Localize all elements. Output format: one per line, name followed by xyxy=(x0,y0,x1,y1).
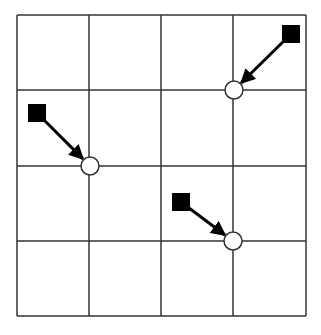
arrow-icon xyxy=(181,202,225,235)
circle-target-icon xyxy=(224,232,242,250)
markers xyxy=(28,25,300,250)
circle-target-icon xyxy=(225,81,243,99)
arrow-icon xyxy=(37,113,83,159)
arrow-icon xyxy=(241,34,291,83)
grid-diagram xyxy=(0,0,321,335)
marker-1 xyxy=(225,25,300,99)
circle-target-icon xyxy=(81,157,99,175)
